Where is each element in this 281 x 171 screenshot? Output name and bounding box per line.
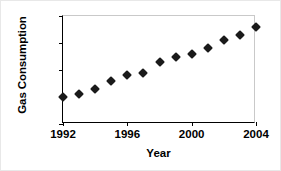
x-axis-title: Year [62,147,255,159]
plot-area: 100110120130140 1992199620002004 [62,15,255,123]
data-point [171,52,181,62]
gas-consumption-scatter-chart: Gas Consumption 100110120130140 19921996… [0,0,281,171]
data-point [155,57,165,67]
x-tick-label: 1992 [33,128,93,140]
data-point [187,49,197,59]
x-tick-label: 2000 [162,128,222,140]
x-tick-label: 1996 [97,128,157,140]
x-tick-mark [192,122,193,126]
x-tick-mark [127,122,128,126]
x-tick-label: 2004 [226,128,281,140]
y-tick-mark [59,70,63,71]
data-point [106,76,116,86]
x-tick-mark [256,122,257,126]
data-point [251,22,261,32]
data-point [122,70,132,80]
data-point [235,30,245,40]
data-point [74,89,84,99]
data-point [219,35,229,45]
data-point [138,68,148,78]
data-point [203,43,213,53]
x-tick-mark [63,122,64,126]
y-axis-title: Gas Consumption [16,5,28,125]
y-tick-mark [59,43,63,44]
data-point [58,92,68,102]
y-tick-mark [59,16,63,17]
data-point [90,84,100,94]
